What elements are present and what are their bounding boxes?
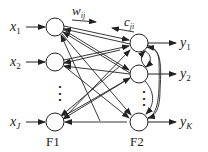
layer-label-f2: F2 [130,134,144,149]
input-label-2: x2 [9,54,21,71]
weight-label-w: wij [72,3,86,20]
f2-ellipsis: ⋮ [135,88,153,108]
weight-label-c: cji [124,14,134,31]
f2-node-2 [130,65,148,83]
interlayer-connections [61,26,131,122]
input-label-1: x1 [9,19,21,36]
f1-node-J [46,113,64,131]
f1-ellipsis: ⋮ [51,83,69,103]
output-label-2: y2 [178,66,191,83]
output-label-K: yK [178,114,193,131]
f2-node-K [130,113,148,131]
f1-node-1 [46,18,64,36]
f2-layer [130,34,148,131]
weight-arrow-w [72,20,96,22]
f2-node-1 [130,34,148,52]
art-network-diagram: ⋮ ⋮ x1 x2 xJ y1 y2 yK wij cji F1 F2 [0,0,208,152]
layer-label-f1: F1 [46,134,60,149]
input-arrows [26,27,45,122]
f1-node-2 [46,53,64,71]
input-label-J: xJ [9,114,21,131]
output-label-1: y1 [178,35,191,52]
output-arrows [148,43,176,122]
